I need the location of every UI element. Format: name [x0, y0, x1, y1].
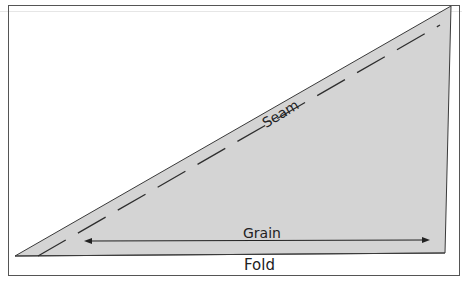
diagram-canvas: Seam Grain Fold: [0, 0, 462, 281]
fold-label: Fold: [244, 258, 275, 273]
pattern-piece: [15, 6, 451, 256]
pattern-diagram: [0, 0, 462, 281]
grain-label: Grain: [243, 226, 281, 240]
